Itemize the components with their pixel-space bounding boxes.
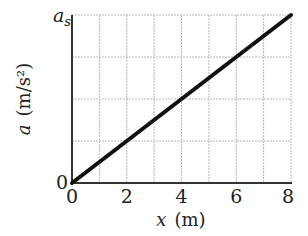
y-tick-as: as [53,4,71,29]
x-axis-unit: (m) [175,209,206,230]
y-axis-unit: (m/s²) [13,63,34,117]
x-tick-2: 2 [121,185,133,207]
y-axis-var: a [13,124,34,135]
x-axis-var: x [156,209,166,230]
y-tick-0: 0 [56,171,68,193]
chart: 0 2 4 6 8 0 as x(m) a(m/s²) [0,0,308,236]
x-tick-4: 4 [175,185,187,207]
y-tick-as-sub: s [64,14,71,29]
y-tick-as-var: a [53,4,64,26]
x-axis-label: x(m) [156,209,205,230]
y-axis-label: a(m/s²) [13,63,34,135]
x-tick-6: 6 [230,185,242,207]
x-tick-8: 8 [282,185,294,207]
